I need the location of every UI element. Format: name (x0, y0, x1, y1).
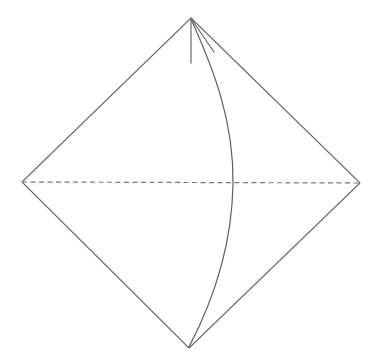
geometry-figure-svg (0, 0, 382, 361)
diagram-canvas (0, 0, 382, 361)
horizontal-dashed-diagonal (22, 182, 360, 183)
rhombus-outline (22, 18, 360, 348)
